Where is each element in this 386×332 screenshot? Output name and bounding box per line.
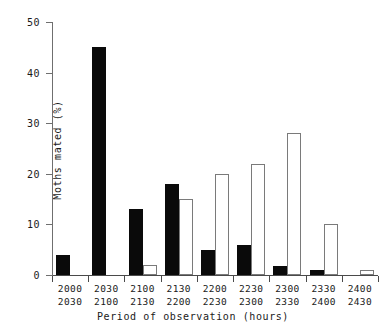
bar-filled	[56, 255, 70, 275]
bar-chart: Moths mated (%) 01020304050 200020302030…	[0, 0, 386, 332]
x-axis-label-line: 2030	[52, 296, 88, 309]
bar-filled	[165, 184, 179, 275]
bar-open	[143, 265, 157, 275]
x-axis-label-line: 2330	[306, 283, 342, 296]
x-axis-label-line: 2300	[233, 296, 269, 309]
x-axis-tick	[124, 276, 125, 282]
x-axis-group-label: 22002230	[197, 283, 233, 308]
x-axis-label-line: 2200	[197, 283, 233, 296]
bar-filled	[129, 209, 143, 275]
y-axis-tick-label: 20	[27, 168, 40, 179]
x-axis-label-line: 2230	[233, 283, 269, 296]
y-axis-tick	[46, 224, 53, 225]
y-axis-tick-label: 0	[33, 270, 40, 281]
x-axis-group-label: 23002330	[269, 283, 305, 308]
x-axis-group-label: 21302200	[161, 283, 197, 308]
bar-open	[287, 133, 301, 275]
x-axis-title: Period of observation (hours)	[0, 311, 386, 322]
x-axis-tick	[342, 276, 343, 282]
bar-filled	[273, 266, 287, 275]
x-axis-label-line: 2000	[52, 283, 88, 296]
bar-filled	[92, 47, 106, 275]
y-axis-tick-label: 30	[27, 118, 40, 129]
x-axis-group-label: 20302100	[88, 283, 124, 308]
y-axis-tick	[46, 73, 53, 74]
x-axis-tick	[161, 276, 162, 282]
x-axis-tick	[306, 276, 307, 282]
bar-filled	[310, 270, 324, 275]
x-axis-label-line: 2100	[124, 283, 160, 296]
x-axis-label-line: 2230	[197, 296, 233, 309]
x-axis-label-line: 2430	[342, 296, 378, 309]
x-axis-group-label: 23302400	[306, 283, 342, 308]
bar-open	[215, 174, 229, 275]
x-axis-group-label: 20002030	[52, 283, 88, 308]
y-axis-line	[52, 22, 53, 276]
y-axis-tick-label: 10	[27, 219, 40, 230]
x-axis-tick	[197, 276, 198, 282]
bar-open	[179, 199, 193, 275]
y-axis-tick	[46, 174, 53, 175]
x-axis-label-line: 2200	[161, 296, 197, 309]
x-axis-tick	[233, 276, 234, 282]
x-axis-group-label: 24002430	[342, 283, 378, 308]
x-axis-label-line: 2130	[161, 283, 197, 296]
x-axis-tick	[88, 276, 89, 282]
x-axis-group-label: 21002130	[124, 283, 160, 308]
y-axis-tick	[46, 123, 53, 124]
bar-filled	[237, 245, 251, 275]
x-axis-label-line: 2030	[88, 283, 124, 296]
x-axis-label-line: 2400	[342, 283, 378, 296]
x-axis-label-line: 2400	[306, 296, 342, 309]
x-axis-tick	[52, 276, 53, 282]
x-axis-group-label: 22302300	[233, 283, 269, 308]
x-axis-label-line: 2100	[88, 296, 124, 309]
x-axis-tick	[378, 276, 379, 282]
bar-open	[360, 270, 374, 275]
y-axis-tick-label: 50	[27, 17, 40, 28]
x-axis-label-line: 2330	[269, 296, 305, 309]
x-axis-tick	[269, 276, 270, 282]
bar-open	[251, 164, 265, 275]
plot-area: 01020304050	[52, 22, 378, 276]
bar-filled	[201, 250, 215, 275]
x-axis-label-line: 2300	[269, 283, 305, 296]
y-axis-tick-label: 40	[27, 67, 40, 78]
y-axis-tick	[46, 22, 53, 23]
bar-open	[324, 224, 338, 275]
x-axis-line	[52, 275, 378, 276]
x-axis-label-line: 2130	[124, 296, 160, 309]
